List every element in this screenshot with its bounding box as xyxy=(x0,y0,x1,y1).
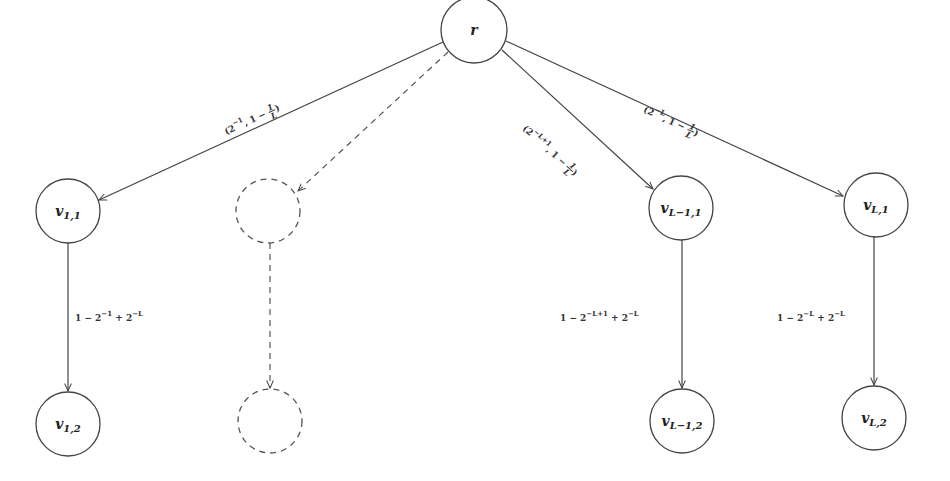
node-vL1-2-label: vL−1,2 xyxy=(662,413,703,431)
node-vL-2-label: vL,2 xyxy=(861,410,887,428)
vL-2-label-sub: L,2 xyxy=(869,417,886,428)
diagram-graphics xyxy=(0,0,950,481)
node-vL1-1-label: vL−1,1 xyxy=(661,200,702,218)
edge-root-ellipsis xyxy=(298,52,448,191)
v11-label-sub: 1,1 xyxy=(63,210,80,221)
tree-diagram: r v1,1 v1,2 vL−1,1 vL−1,2 vL,1 vL,2 (2−1… xyxy=(0,0,950,481)
vL-2-label-base: v xyxy=(861,410,869,426)
v11-label-base: v xyxy=(55,203,63,219)
vL-1-label-sub: L,1 xyxy=(871,204,888,215)
node-vL-1-label: vL,1 xyxy=(863,197,889,215)
v12-label-sub: 1,2 xyxy=(63,423,80,434)
node-v12-label: v1,2 xyxy=(55,416,81,434)
vL1-1-label-base: v xyxy=(661,200,669,216)
vL1-2-label-sub: L−1,2 xyxy=(670,420,703,431)
edge-label-v11-v12: 1 − 2−1 + 2−L xyxy=(75,309,143,323)
edge-label-vL-1-vL-2: 1 − 2−L + 2−L xyxy=(777,309,845,323)
edge-root-v11 xyxy=(99,42,443,200)
root-label-text: r xyxy=(470,22,477,38)
node-ellipsis-top xyxy=(236,179,300,243)
node-root-label: r xyxy=(470,22,477,38)
vL1-1-label-sub: L−1,1 xyxy=(669,207,702,218)
node-v11-label: v1,1 xyxy=(55,203,81,221)
node-ellipsis-bottom xyxy=(238,389,302,453)
vL1-2-label-base: v xyxy=(662,413,670,429)
v12-label-base: v xyxy=(55,416,63,432)
vL-1-label-base: v xyxy=(863,197,871,213)
edge-label-vL1-1-vL1-2: 1 − 2−L+1 + 2−L xyxy=(560,309,639,323)
